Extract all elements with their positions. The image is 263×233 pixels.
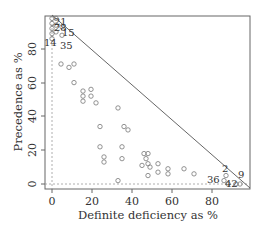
data-point <box>67 65 71 69</box>
scatter-chart: 0 20 40 60 80 Precedence as % 0 20 40 60… <box>0 0 263 233</box>
data-point <box>148 165 152 169</box>
data-point <box>146 173 150 177</box>
data-point <box>102 155 106 159</box>
y-axis: 0 20 40 60 80 Precedence as % <box>11 42 45 188</box>
point-label: 35 <box>60 40 73 51</box>
plot-frame <box>45 16 250 189</box>
point-label: 14 <box>44 37 57 48</box>
point-label: 2 <box>222 163 228 174</box>
data-point <box>166 172 170 176</box>
x-axis-label: Definite deficiency as % <box>78 208 218 222</box>
data-point <box>144 156 148 160</box>
data-point <box>120 156 124 160</box>
point-label: 15 <box>62 27 75 38</box>
data-point <box>116 178 120 182</box>
y-tick-label: 0 <box>26 181 39 188</box>
point-label: 9 <box>238 169 244 180</box>
x-tick-label: 60 <box>165 195 179 208</box>
y-tick-label: 40 <box>26 109 39 123</box>
y-axis-label: Precedence as % <box>11 52 25 151</box>
data-point <box>72 80 76 84</box>
x-tick-label: 20 <box>85 195 99 208</box>
data-point <box>122 124 126 128</box>
x-tick-label: 80 <box>205 195 219 208</box>
data-point <box>94 101 98 105</box>
data-point <box>156 162 160 166</box>
data-point <box>72 62 76 66</box>
data-point <box>98 145 102 149</box>
diagonal-line <box>52 15 250 188</box>
data-point <box>81 99 85 103</box>
y-tick-label: 20 <box>26 143 39 157</box>
y-tick-label: 60 <box>26 76 39 90</box>
data-point <box>81 89 85 93</box>
data-point <box>120 145 124 149</box>
data-point <box>102 160 106 164</box>
x-axis: 0 20 40 60 80 Definite deficiency as % <box>49 189 220 222</box>
point-label: 42 <box>225 178 238 189</box>
point-label: 36 <box>207 174 220 185</box>
data-point <box>192 172 196 176</box>
point-labels: 21 28 15 14 35 2 36 42 9 <box>44 16 244 189</box>
data-point <box>89 94 93 98</box>
data-point <box>81 94 85 98</box>
data-point <box>140 163 144 167</box>
data-point <box>98 124 102 128</box>
data-point <box>116 106 120 110</box>
data-point <box>156 170 160 174</box>
chart-canvas: 0 20 40 60 80 Precedence as % 0 20 40 60… <box>0 0 263 233</box>
x-tick-label: 40 <box>125 195 139 208</box>
data-point <box>166 167 170 171</box>
data-point <box>126 128 130 132</box>
x-tick-label: 0 <box>49 195 56 208</box>
data-point <box>89 87 93 91</box>
data-points <box>50 16 242 186</box>
y-tick-label: 80 <box>26 42 39 56</box>
data-point <box>182 167 186 171</box>
data-point <box>59 62 63 66</box>
